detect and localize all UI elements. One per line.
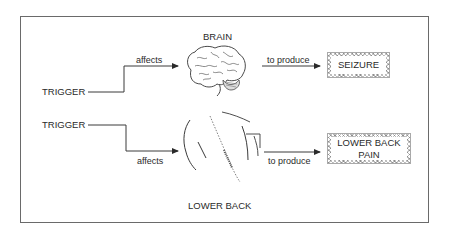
lower-back-pain-line1: LOWER BACK: [337, 137, 400, 148]
bottom-produce-label: to produce: [268, 156, 311, 166]
lower-back-pain-line2: PAIN: [358, 149, 379, 160]
seizure-box: SEIZURE: [327, 52, 390, 78]
top-affects-label: affects: [136, 55, 162, 65]
lower-back-icon: [176, 100, 268, 192]
lower-back-label: LOWER BACK: [188, 201, 251, 211]
seizure-label: SEIZURE: [331, 56, 386, 74]
lower-back-pain-box: LOWER BACKPAIN: [327, 133, 411, 164]
top-trigger-label: TRIGGER: [42, 87, 85, 97]
bottom-affects-label: affects: [137, 156, 163, 166]
brain-icon: [183, 44, 249, 98]
lower-back-pain-label: LOWER BACKPAIN: [331, 137, 407, 160]
bottom-trigger-label: TRIGGER: [42, 120, 85, 130]
bottom-affects-arrow: [88, 125, 178, 151]
top-affects-arrow: [88, 66, 178, 92]
top-produce-label: to produce: [267, 55, 310, 65]
brain-label: BRAIN: [203, 32, 232, 42]
